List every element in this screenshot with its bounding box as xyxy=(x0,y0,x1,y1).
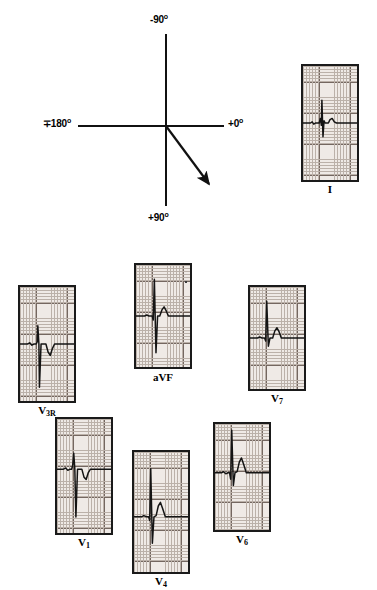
ecg-trace xyxy=(250,287,304,389)
label-text: V xyxy=(78,536,86,548)
label-subscript: 7 xyxy=(279,397,283,406)
ecg-axis-figure: -90o ∓180o +0o +90o IaVFV3RV7V1V4V6 xyxy=(0,0,377,590)
ecg-strip-lead-v4 xyxy=(132,450,190,574)
ecg-strip-lead-v7 xyxy=(248,285,306,391)
label-subscript: 6 xyxy=(244,538,248,547)
label-subscript: 4 xyxy=(163,580,167,589)
scan-speck xyxy=(185,281,187,283)
ecg-strip-lead-v3r xyxy=(18,285,76,403)
ecg-strip-lead-avf xyxy=(134,263,192,369)
ecg-strip-label-lead-i: I xyxy=(301,183,359,195)
label-text: V xyxy=(236,533,244,545)
ecg-strip-label-lead-v7: V7 xyxy=(248,392,306,404)
ecg-trace xyxy=(134,452,188,572)
ecg-trace xyxy=(20,287,74,401)
label-text: V xyxy=(38,404,46,416)
ecg-strip-lead-v1 xyxy=(55,417,113,535)
ecg-strip-label-lead-v3r: V3R xyxy=(18,404,76,416)
ecg-strip-lead-v6 xyxy=(213,422,271,532)
ecg-strip-label-lead-avf: aVF xyxy=(134,371,192,383)
ecg-trace xyxy=(215,424,269,530)
ecg-trace xyxy=(57,419,111,533)
ecg-strip-lead-i xyxy=(301,64,359,182)
label-text: I xyxy=(328,183,332,195)
ecg-strip-label-lead-v6: V6 xyxy=(213,533,271,545)
label-text: aVF xyxy=(153,371,173,383)
axis-label-minus-90: -90o xyxy=(150,14,168,25)
label-subscript: 1 xyxy=(86,541,90,550)
vertical-axis-line xyxy=(165,34,167,206)
axis-label-plus-90: +90o xyxy=(148,212,168,223)
axis-label-plus-90-text: +90 xyxy=(148,212,164,223)
axis-label-plus-minus-180-text: ∓180 xyxy=(43,118,67,129)
label-text: V xyxy=(271,392,279,404)
degree-symbol: o xyxy=(164,13,168,20)
ecg-trace xyxy=(303,66,357,180)
label-text: V xyxy=(155,575,163,587)
axis-label-minus-90-text: -90 xyxy=(150,14,164,25)
degree-symbol: o xyxy=(67,117,71,124)
ecg-trace xyxy=(136,265,190,367)
ecg-strip-label-lead-v1: V1 xyxy=(55,536,113,548)
horizontal-axis-line xyxy=(78,125,224,127)
axis-label-plus-minus-180: ∓180o xyxy=(43,118,71,129)
ecg-strip-label-lead-v4: V4 xyxy=(132,575,190,587)
axis-label-plus-0: +0o xyxy=(228,118,243,129)
degree-symbol: o xyxy=(164,211,168,218)
degree-symbol: o xyxy=(239,117,243,124)
axis-label-plus-0-text: +0 xyxy=(228,118,239,129)
hexaxial-reference-axes: -90o ∓180o +0o +90o xyxy=(0,0,280,250)
